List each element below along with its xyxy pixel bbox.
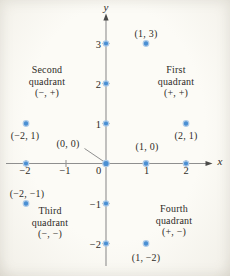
quadrant-second-word: quadrant xyxy=(29,76,66,88)
y-axis-arrowhead xyxy=(103,14,108,21)
y-tick-label-2: 2 xyxy=(96,78,101,89)
point-label-0-0: (0, 0) xyxy=(57,138,80,149)
quadrants-coordinate-plane-figure: y x −2 −1 0 1 2 3 2 1 −1 −2 (1, 3) (−2, … xyxy=(0,0,230,276)
quadrant-label-third: Third quadrant (−, −) xyxy=(32,205,69,240)
point-label-2-1: (2, 1) xyxy=(175,129,198,140)
point-label-1-0: (1, 0) xyxy=(136,141,159,152)
quadrant-first-name: First xyxy=(158,64,195,76)
point-dot xyxy=(183,121,189,127)
x-tick-label-neg1: −1 xyxy=(59,165,70,176)
origin-pointer-line xyxy=(85,149,105,163)
point-label-neg2-1: (−2, 1) xyxy=(11,130,40,141)
y-tick-dot xyxy=(103,241,108,246)
quadrant-second-signs: (−, +) xyxy=(29,87,66,99)
point-dot xyxy=(23,201,29,207)
x-axis-label: x xyxy=(217,155,222,167)
x-tick-label-neg2: −2 xyxy=(19,165,30,176)
point-label-1-3: (1, 3) xyxy=(135,27,158,38)
quadrant-third-word: quadrant xyxy=(32,217,69,229)
y-tick-dot xyxy=(103,41,108,46)
quadrant-first-signs: (+, +) xyxy=(158,87,195,99)
quadrant-fourth-name: Fourth xyxy=(156,203,193,215)
y-tick-label-neg2: −2 xyxy=(90,238,101,249)
point-label-neg2-neg1: (−2, −1) xyxy=(10,188,45,199)
quadrant-label-fourth: Fourth quadrant (+, −) xyxy=(156,203,193,238)
quadrant-label-first: First quadrant (+, +) xyxy=(158,64,195,99)
quadrant-third-signs: (−, −) xyxy=(32,228,69,240)
x-axis-arrowhead xyxy=(206,161,213,166)
point-dot xyxy=(143,41,149,47)
x-tick-label-2: 2 xyxy=(183,165,188,176)
y-tick-label-3: 3 xyxy=(96,38,101,49)
point-dot xyxy=(143,241,149,247)
quadrant-third-name: Third xyxy=(32,205,69,217)
x-tick-label-1: 1 xyxy=(144,165,149,176)
y-tick-label-neg1: −1 xyxy=(90,198,101,209)
x-tick-label-0: 0 xyxy=(96,165,101,176)
y-tick-dot xyxy=(103,201,108,206)
quadrant-fourth-signs: (+, −) xyxy=(156,226,193,238)
quadrant-label-second: Second quadrant (−, +) xyxy=(29,64,66,99)
point-dot xyxy=(23,121,29,127)
quadrant-second-name: Second xyxy=(29,64,66,76)
quadrant-first-word: quadrant xyxy=(158,76,195,88)
point-label-1-neg2: (1, −2) xyxy=(132,251,161,262)
quadrant-fourth-word: quadrant xyxy=(156,215,193,227)
y-tick-label-1: 1 xyxy=(96,118,101,129)
y-tick-dot xyxy=(103,81,108,86)
y-tick-dot xyxy=(103,121,108,126)
point-dot xyxy=(103,160,109,166)
y-axis-label: y xyxy=(103,1,108,13)
